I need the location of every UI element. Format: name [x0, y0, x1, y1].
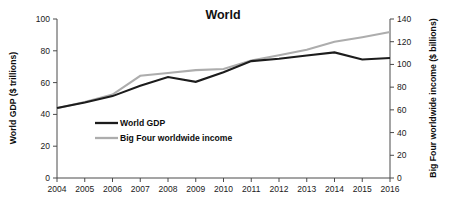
chart-title: World — [205, 8, 240, 22]
left-tick-label: 20 — [41, 141, 51, 151]
right-axis-tick-labels: 020406080100120140 — [397, 14, 411, 183]
x-tick-label: 2015 — [353, 184, 372, 194]
left-tick-label: 40 — [41, 109, 51, 119]
chart-legend: World GDP Big Four worldwide income — [95, 118, 232, 143]
right-tick-label: 80 — [397, 82, 407, 92]
x-tick-label: 2016 — [381, 184, 400, 194]
x-tick-label: 2005 — [75, 184, 94, 194]
x-tick-label: 2004 — [48, 184, 67, 194]
series-line-world-gdp — [57, 52, 390, 108]
left-tick-label: 0 — [45, 173, 50, 183]
left-tick-label: 100 — [36, 14, 50, 24]
right-tick-label: 140 — [397, 14, 411, 24]
legend-label-big-four-worldwide-income: Big Four worldwide income — [120, 133, 232, 143]
x-tick-label: 2008 — [159, 184, 178, 194]
x-tick-label: 2011 — [242, 184, 261, 194]
x-tick-label: 2014 — [325, 184, 344, 194]
x-tick-label: 2013 — [297, 184, 316, 194]
right-tick-label: 40 — [397, 128, 407, 138]
x-axis-ticks — [57, 178, 390, 182]
x-tick-label: 2006 — [103, 184, 122, 194]
left-axis-tick-labels: 020406080100 — [36, 14, 50, 183]
x-tick-label: 2010 — [214, 184, 233, 194]
x-axis-tick-labels: 2004200520062007200820092010201120122013… — [48, 184, 400, 194]
legend-label-world-gdp: World GDP — [120, 118, 165, 128]
x-tick-label: 2012 — [270, 184, 289, 194]
left-tick-label: 80 — [41, 46, 51, 56]
x-tick-label: 2007 — [131, 184, 150, 194]
right-tick-label: 120 — [397, 37, 411, 47]
left-axis-title: World GDP ($ trillions) — [8, 52, 18, 144]
line-chart: 020406080100 020406080100120140 20042005… — [0, 0, 452, 219]
x-tick-label: 2009 — [186, 184, 205, 194]
chart-container: 020406080100 020406080100120140 20042005… — [0, 0, 452, 219]
left-tick-label: 60 — [41, 78, 51, 88]
right-tick-label: 100 — [397, 59, 411, 69]
right-tick-label: 60 — [397, 105, 407, 115]
right-tick-label: 0 — [397, 173, 402, 183]
right-axis-title: Big Four worldwide income ($ billions) — [428, 18, 438, 177]
right-tick-label: 20 — [397, 150, 407, 160]
right-axis-ticks — [390, 19, 394, 178]
left-axis-ticks — [53, 19, 57, 178]
